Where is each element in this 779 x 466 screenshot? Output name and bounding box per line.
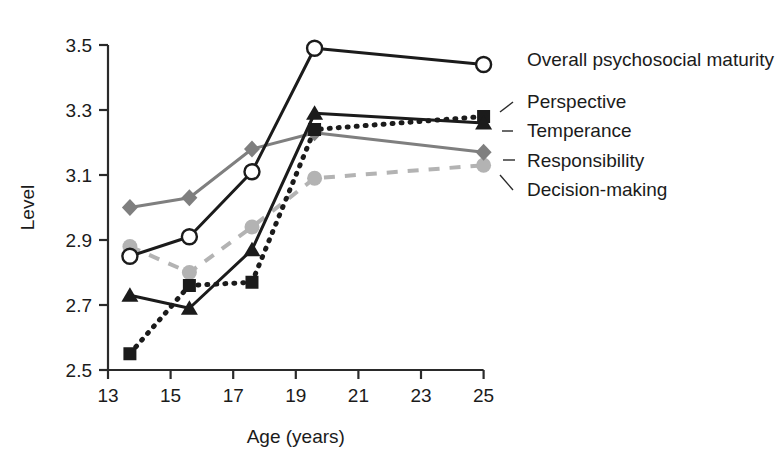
x-axis-tick-label: 23 <box>410 385 431 406</box>
data-point-filled-circle <box>307 171 322 186</box>
x-axis-tick-label: 15 <box>160 385 181 406</box>
y-axis-tick-label: 3.1 <box>66 165 92 186</box>
line-chart: 2.52.72.93.13.33.513151719212325 LevelAg… <box>0 0 779 466</box>
data-point-filled-diamond <box>476 144 492 161</box>
axis-lines <box>108 45 484 370</box>
series-temperance <box>121 105 492 315</box>
data-point-filled-triangle <box>121 287 138 302</box>
y-axis-tick-label: 2.5 <box>66 360 92 381</box>
legend-leader-line <box>500 175 513 190</box>
data-point-open-circle <box>122 249 137 264</box>
series-line <box>130 165 484 272</box>
x-axis-tick-label: 19 <box>285 385 306 406</box>
y-axis-title: Level <box>17 185 38 230</box>
x-axis-tick-label: 21 <box>348 385 369 406</box>
legend-leader-line <box>500 102 513 112</box>
data-point-open-circle <box>244 164 259 179</box>
series-line <box>130 48 484 256</box>
series-overall-psychosocial-maturity <box>122 41 491 264</box>
chart-series <box>121 41 492 361</box>
data-point-filled-circle <box>244 220 259 235</box>
data-point-filled-triangle <box>243 242 260 257</box>
data-point-filled-circle <box>182 265 197 280</box>
legend-label-perspective: Perspective <box>527 91 626 112</box>
y-axis-tick-label: 2.9 <box>66 230 92 251</box>
data-point-open-circle <box>307 41 322 56</box>
data-point-open-circle <box>182 229 197 244</box>
data-point-filled-square <box>123 347 136 360</box>
data-point-open-circle <box>476 57 491 72</box>
chart-page: 2.52.72.93.13.33.513151719212325 LevelAg… <box>0 0 779 466</box>
series-decision-making <box>122 158 491 280</box>
legend-label-decision-making: Decision-making <box>527 179 667 200</box>
data-point-filled-square <box>245 276 258 289</box>
y-axis-tick-label: 3.5 <box>66 35 92 56</box>
y-axis-tick-label: 2.7 <box>66 295 92 316</box>
legend-label-responsibility: Responsibility <box>527 150 645 171</box>
x-axis-tick-label: 17 <box>223 385 244 406</box>
x-axis-title: Age (years) <box>247 426 345 447</box>
data-point-filled-diamond <box>122 199 138 216</box>
chart-inline-legend: Overall psychosocial maturityPerspective… <box>500 49 775 200</box>
legend-label-overall-psychosocial-maturity: Overall psychosocial maturity <box>527 49 775 70</box>
x-axis-tick-label: 25 <box>473 385 494 406</box>
x-axis-tick-label: 13 <box>97 385 118 406</box>
legend-label-temperance: Temperance <box>527 120 632 141</box>
y-axis-tick-label: 3.3 <box>66 100 92 121</box>
data-point-filled-square <box>183 279 196 292</box>
